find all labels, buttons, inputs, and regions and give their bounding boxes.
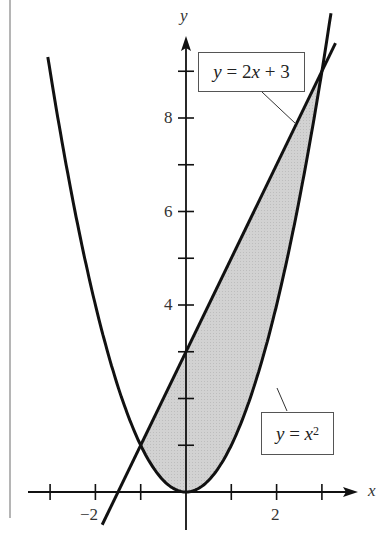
x-tick-label-2: 2 bbox=[271, 505, 280, 525]
exponent: 2 bbox=[313, 424, 319, 439]
parabola-label-leader bbox=[277, 388, 287, 411]
line-equation-label: y = 2x + 3 bbox=[198, 52, 305, 92]
y-tick-label-4: 4 bbox=[164, 295, 173, 315]
var-y: y bbox=[213, 61, 221, 83]
x-tick-label-neg2: −2 bbox=[80, 505, 98, 525]
eq-part: = bbox=[284, 423, 304, 445]
parabola-equation-label: y = x2 bbox=[261, 412, 334, 455]
var-x: x bbox=[252, 61, 260, 83]
eq-part: = 2 bbox=[222, 61, 252, 83]
line-label-leader bbox=[262, 92, 296, 124]
y-tick-label-8: 8 bbox=[164, 108, 173, 128]
y-tick-label-6: 6 bbox=[164, 202, 173, 222]
var-y: y bbox=[276, 423, 284, 445]
y-axis-label: y bbox=[180, 6, 188, 26]
x-axis-label: x bbox=[368, 481, 376, 501]
var-x: x bbox=[305, 423, 313, 445]
plot-area bbox=[0, 0, 391, 538]
eq-tail: + 3 bbox=[260, 61, 290, 83]
